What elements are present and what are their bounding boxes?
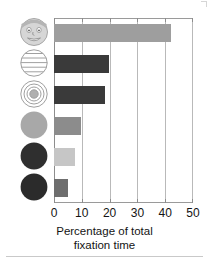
- bar-concentric-circles-icon: [54, 86, 105, 104]
- category-icon-concentric-circles: [16, 78, 52, 109]
- bar-striped-circle-icon: [54, 55, 109, 73]
- dark-circle-icon: [18, 141, 50, 171]
- tick-bottom-20: [110, 199, 111, 203]
- tick-bottom-0: [54, 199, 55, 203]
- gridline-10: [82, 18, 83, 203]
- bar-dark-circle-icon-2: [54, 179, 68, 197]
- striped-circle-icon: [18, 48, 50, 78]
- tick-top-0: [54, 18, 55, 22]
- tick-top-30: [137, 18, 138, 22]
- tick-top-40: [165, 18, 166, 22]
- x-tick-label-40: 40: [159, 206, 172, 220]
- dark-circle-icon: [18, 172, 50, 202]
- category-icon-column: [16, 16, 52, 206]
- category-icon-dark-circle-2: [16, 171, 52, 202]
- medium-gray-circle-icon: [18, 110, 50, 140]
- plot-top-rule: [54, 18, 193, 19]
- tick-bottom-40: [165, 199, 166, 203]
- gridline-50: [192, 18, 193, 203]
- x-tick-label-0: 0: [51, 206, 58, 220]
- tick-bottom-30: [137, 199, 138, 203]
- plot-area: [54, 18, 193, 203]
- gridline-0: [54, 18, 55, 203]
- bar-medium-gray-circle-icon: [54, 117, 81, 135]
- tick-top-50: [192, 18, 193, 22]
- x-tick-label-10: 10: [75, 206, 88, 220]
- x-axis-title-line-1: Percentage of total: [0, 224, 209, 238]
- x-axis-title: Percentage of total fixation time: [0, 224, 209, 252]
- plot-bottom-rule: [54, 202, 193, 203]
- x-axis-title-line-2: fixation time: [0, 238, 209, 252]
- tick-top-20: [110, 18, 111, 22]
- plot-wrapper: [0, 0, 209, 214]
- gridline-40: [165, 18, 166, 203]
- category-icon-face: [16, 16, 52, 47]
- category-icon-medium-gray-circle: [16, 109, 52, 140]
- tick-bottom-50: [192, 199, 193, 203]
- bar-face-icon: [54, 24, 171, 42]
- bar-chart-figure: 01020304050 Percentage of total fixation…: [0, 0, 209, 260]
- footer-divider: [6, 256, 203, 257]
- gridline-30: [137, 18, 138, 203]
- tick-top-10: [82, 18, 83, 22]
- bar-dark-circle-icon: [54, 148, 75, 166]
- concentric-circles-icon: [18, 79, 50, 109]
- x-tick-label-20: 20: [103, 206, 116, 220]
- x-tick-label-30: 30: [131, 206, 144, 220]
- category-icon-striped-circle: [16, 47, 52, 78]
- tick-bottom-10: [82, 199, 83, 203]
- category-icon-dark-circle: [16, 140, 52, 171]
- gridline-20: [110, 18, 111, 203]
- face-icon: [18, 17, 50, 47]
- x-axis-tick-labels: 01020304050: [54, 206, 193, 222]
- x-tick-label-50: 50: [186, 206, 199, 220]
